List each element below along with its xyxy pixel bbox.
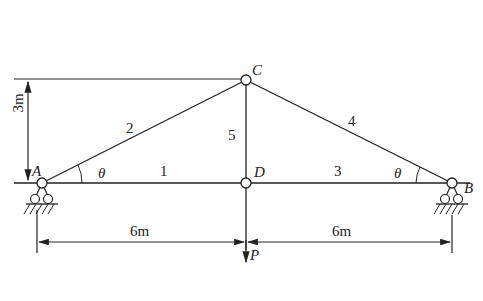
node-a-label: A [31,163,42,179]
member-5-label: 5 [228,127,236,143]
member-2-label: 2 [126,120,134,136]
member-4-line [246,80,452,183]
right-span-label: 6m [332,223,352,239]
member-2-line [42,80,246,183]
member-3-label: 3 [334,163,342,179]
truss-diagram: 3m 2 1 5 3 4 θ θ C D A B [0,0,483,301]
span-dimensions: 6m 6m [37,210,452,253]
height-label: 3m [10,93,26,113]
member-1-label: 1 [160,163,168,179]
node-b-label: B [464,180,473,196]
load-label: P [249,247,259,263]
joint-d [241,178,251,188]
member-4-label: 4 [348,113,356,129]
left-span-label: 6m [130,223,150,239]
angle-right-label: θ [394,165,402,181]
angle-arc-left [78,165,82,183]
node-d-label: D [253,164,265,180]
node-c-label: C [252,62,263,78]
joint-c [241,75,251,85]
members [14,80,470,250]
angle-arc-right [416,167,420,183]
angle-left-label: θ [98,165,106,181]
